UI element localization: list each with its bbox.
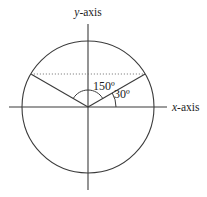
angle-label-150: 150º (93, 79, 115, 93)
angle-label-30: 30º (114, 87, 130, 101)
unit-circle-figure: y-axis x-axis 150º 30º (0, 0, 207, 197)
y-axis-label-suffix: -axis (79, 6, 102, 18)
x-axis-label: x-axis (171, 101, 200, 113)
unit-circle-diagram: y-axis x-axis 150º 30º (0, 0, 207, 197)
ray-150-degrees (31, 74, 88, 107)
x-axis-label-suffix: -axis (177, 101, 200, 113)
y-axis-label: y-axis (73, 6, 102, 19)
